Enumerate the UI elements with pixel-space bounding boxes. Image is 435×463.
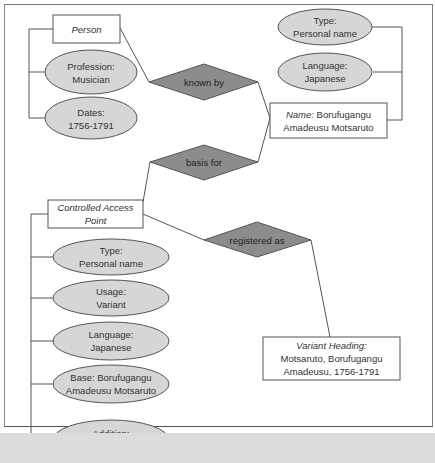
attribute-name-type: Type: Personal name xyxy=(278,14,372,40)
attribute-profession: Profession: Musician xyxy=(45,60,137,86)
variant-heading-prefix: Variant Heading: xyxy=(296,339,366,352)
attribute-cap-language: Language: Japanese xyxy=(53,328,169,354)
relationship-registered-as: registered as xyxy=(213,232,301,248)
attribute-dates: Dates: 1756-1791 xyxy=(45,106,137,132)
name-label-prefix: Name: xyxy=(286,109,314,120)
controlled-access-point-label: Controlled Access Point xyxy=(48,200,143,228)
name-label: Name: Borufugangu Amadeusu Motsaruto xyxy=(270,103,387,138)
relationship-known-by: known by xyxy=(160,74,248,90)
footer-band xyxy=(0,433,435,463)
attribute-cap-type: Type: Personal name xyxy=(53,244,169,270)
attribute-cap-usage: Usage: Variant xyxy=(53,285,169,311)
variant-heading-value: Motsaruto, Borufugangu Amadeusu, 1756-17… xyxy=(281,352,383,378)
relationship-basis-for: basis for xyxy=(160,154,248,170)
attribute-name-language: Language: Japanese xyxy=(278,59,372,85)
variant-heading-label: Variant Heading:Motsaruto, Borufugangu A… xyxy=(263,337,400,380)
attribute-cap-base: Base: Borufugangu Amadeusu Motsaruto xyxy=(53,371,169,397)
person-label: Person xyxy=(53,15,120,43)
